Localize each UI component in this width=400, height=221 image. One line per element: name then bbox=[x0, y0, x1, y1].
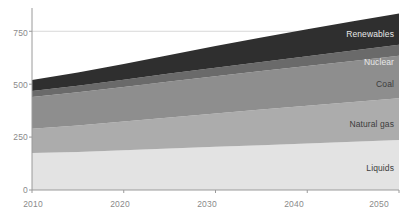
stacked-area-chart: 750 500 250 0 2010 2020 2030 2040 2050 R… bbox=[0, 0, 400, 221]
ytick-label-0: 0 bbox=[0, 185, 28, 195]
series-label-liquids: Liquids bbox=[366, 163, 394, 173]
series-label-nuclear: Nuclear bbox=[364, 57, 394, 67]
xtick-label-2030: 2030 bbox=[187, 199, 227, 209]
ytick-label-500: 500 bbox=[0, 80, 28, 90]
series-label-natural-gas: Natural gas bbox=[349, 119, 394, 129]
xtick-label-2010: 2010 bbox=[13, 199, 53, 209]
series-label-renewables: Renewables bbox=[346, 29, 394, 39]
ytick-label-750: 750 bbox=[0, 28, 28, 38]
xtick-label-2050: 2050 bbox=[359, 199, 399, 209]
plot-area bbox=[0, 0, 400, 221]
series-label-coal: Coal bbox=[376, 79, 394, 89]
area-series-group bbox=[32, 14, 399, 190]
xtick-label-2040: 2040 bbox=[274, 199, 314, 209]
ytick-label-250: 250 bbox=[0, 132, 28, 142]
xtick-label-2020: 2020 bbox=[100, 199, 140, 209]
